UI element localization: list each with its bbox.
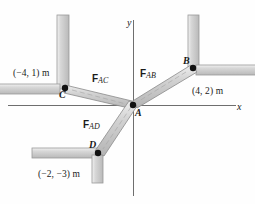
force-label-fac: FAC [92,73,108,85]
axis-label-x: x [237,101,241,112]
force-subscript-fac: AC [98,76,108,85]
point-label-b: B [183,55,190,66]
support-bar-c-horizontal [0,84,60,94]
point-label-a: A [135,107,142,118]
force-label-fad: FAD [83,119,100,131]
force-subscript-fad: AD [89,122,100,131]
point-label-c: C [59,89,66,100]
coord-label-b: (4, 2) m [192,86,223,96]
coord-label-d: (−2, −3) m [38,169,80,179]
point-label-d: D [89,139,96,150]
figure-canvas: y x C B D A (−4, 1) m (4, 2) m (−2, −3) … [0,0,255,204]
support-bar-d-vertical [92,155,103,183]
member-ad [95,101,137,156]
axis-label-y: y [127,17,131,28]
force-subscript-fab: AB [146,71,156,80]
support-bar-b-horizontal [196,65,255,75]
force-label-fab: FAB [140,68,156,80]
coord-label-c: (−4, 1) m [13,68,50,78]
node-d [95,150,101,156]
support-bar-c-vertical [57,15,69,89]
node-b [190,65,196,71]
